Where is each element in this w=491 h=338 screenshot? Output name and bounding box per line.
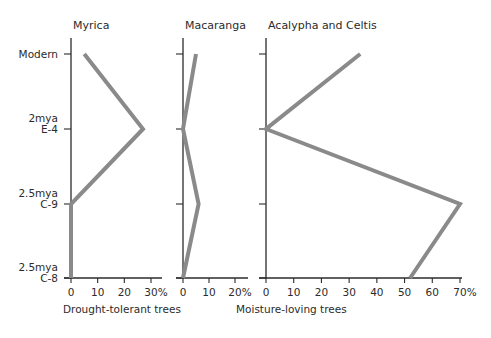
data-line (266, 54, 460, 278)
panel-title: Myrica (73, 19, 109, 32)
panel-title: Acalypha and Celtis (268, 19, 377, 32)
pollen-diagram-chart: Modern2myaE-42.5myaC-92.5myaC-8Myrica010… (0, 0, 491, 338)
x-tick-label: 30 (342, 286, 355, 298)
group-label-moisture-loving: Moisture-loving trees (236, 303, 347, 315)
x-tick-label: 10 (287, 286, 300, 298)
data-line (71, 54, 143, 278)
x-tick-label: 40 (370, 286, 383, 298)
category-label: 2myaE-4 (28, 112, 58, 135)
svg-text:E-4: E-4 (41, 123, 58, 135)
x-tick-label: 70% (453, 286, 476, 298)
x-tick-label: 20% (228, 286, 251, 298)
x-tick-label: 60 (426, 286, 439, 298)
x-tick-label: 10 (91, 286, 104, 298)
panel-macaranga: Macaranga01020% (176, 19, 252, 298)
panel-myrica: Myrica0102030% (64, 19, 168, 298)
svg-text:Modern: Modern (19, 48, 58, 60)
category-label: 2.5myaC-8 (18, 261, 58, 284)
x-tick-label: 20 (118, 286, 131, 298)
x-tick-label: 0 (180, 286, 187, 298)
category-label: 2.5myaC-9 (18, 187, 58, 210)
x-tick-label: 20 (315, 286, 328, 298)
data-line (183, 54, 199, 278)
x-tick-label: 50 (398, 286, 411, 298)
panel-title: Macaranga (185, 19, 246, 32)
x-tick-label: 30% (144, 286, 167, 298)
x-tick-label: 0 (68, 286, 75, 298)
svg-text:C-8: C-8 (40, 272, 58, 284)
category-label: Modern (19, 48, 58, 60)
panel-acalypha-and-celtis: Acalypha and Celtis010203040506070% (259, 19, 477, 298)
x-tick-label: 0 (263, 286, 270, 298)
group-label-drought-tolerant: Drought-tolerant trees (63, 303, 181, 315)
x-tick-label: 10 (202, 286, 215, 298)
svg-text:C-9: C-9 (40, 198, 58, 210)
